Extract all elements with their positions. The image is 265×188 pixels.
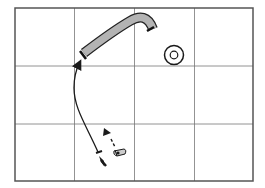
curved-bar [80, 17, 154, 59]
dashed-arrow [103, 128, 115, 147]
grid-lines [15, 8, 253, 181]
target-icon [165, 46, 184, 65]
start-marker-icon [96, 151, 106, 166]
figure-marker-icon [114, 149, 126, 156]
grid-frame [15, 8, 253, 181]
trajectory-arrow [74, 64, 98, 152]
grid-diagram [0, 0, 265, 188]
